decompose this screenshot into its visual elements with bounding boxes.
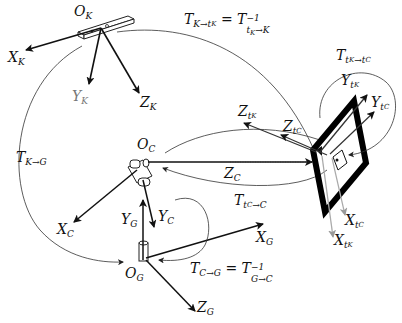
label-transform-c-to-g: TC→G = T−1G→C (190, 261, 281, 278)
label-transform-k-to-tk: TK→tK = T−1tK→K (184, 12, 284, 29)
target-board-icon (313, 101, 366, 212)
label-x-camera: XC (57, 222, 74, 239)
label-x-target-camera: XtC (345, 213, 364, 230)
label-z-ground: ZG (197, 300, 214, 317)
label-transform-tc-to-c: TtC→C (234, 193, 267, 210)
label-y-ground: YG (121, 212, 137, 229)
camera-icon (128, 159, 152, 186)
label-x-ground: XG (256, 230, 273, 247)
label-transform-k-to-g: TK→G (16, 150, 47, 167)
label-z-kinect: ZK (140, 95, 156, 112)
frames-diagram: OK XK YK ZK TK→tK = T−1tK→K TtK→tC YtK Y… (0, 0, 402, 323)
label-x-kinect: XK (8, 50, 25, 67)
label-y-camera: YC (158, 209, 174, 226)
label-origin-ground: OG (125, 266, 144, 283)
label-z-target-camera: ZtC (283, 119, 302, 136)
label-origin-camera: OC (137, 137, 155, 154)
label-y-kinect: YK (72, 89, 88, 106)
label-y-target-camera: YtC (371, 95, 389, 112)
label-x-target-kinect: XtK (334, 233, 353, 250)
label-z-camera: ZC (224, 166, 241, 183)
transform-curve-tc-to-c (163, 168, 327, 186)
label-origin-kinect: OK (74, 4, 92, 21)
label-transform-tk-to-tc: TtK→tC (336, 48, 371, 65)
camera-axes (74, 162, 312, 227)
label-y-target-kinect: YtK (341, 73, 359, 90)
label-z-target-kinect: ZtK (238, 104, 257, 121)
